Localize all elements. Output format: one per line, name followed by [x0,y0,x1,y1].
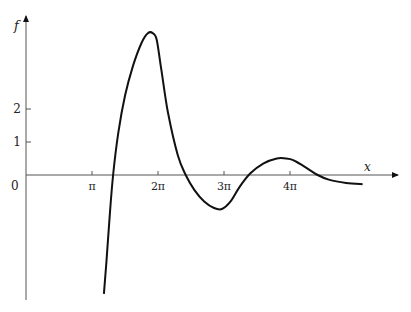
chart: π2π3π4π12 f x 0 [0,0,411,312]
x-axis-label: x [364,160,371,174]
y-axis-label: f [13,18,21,33]
x-tick-label: 4π [283,180,297,193]
origin-label: 0 [11,179,19,193]
y-tick-label: 1 [13,135,21,149]
x-tick-label: 2π [151,180,165,193]
ticks: π2π3π4π12 [13,102,297,193]
axes [26,16,398,300]
data-curve [104,32,363,294]
y-tick-label: 2 [13,102,21,116]
x-tick-label: 3π [217,180,231,193]
x-tick-label: π [88,180,95,193]
